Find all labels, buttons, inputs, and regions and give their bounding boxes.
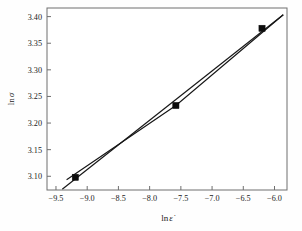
y-tick-label: 3.15 — [28, 146, 42, 155]
y-tick-label: 3.25 — [28, 92, 42, 101]
x-tick-label: −9.5 — [49, 194, 64, 203]
y-tick-label: 3.20 — [28, 119, 42, 128]
y-tick-label: 3.30 — [28, 66, 42, 75]
y-axis-tick-labels: 3.103.153.203.253.303.353.40 — [28, 13, 42, 182]
data-point-marker — [72, 174, 78, 180]
chart-figure: −9.5−9.0−8.5−8.0−7.5−7.0−6.5−6.0 3.103.1… — [0, 0, 302, 231]
plot-area-background — [47, 8, 287, 190]
data-point-marker — [173, 102, 179, 108]
x-axis-title: lnε̇ — [161, 213, 176, 223]
x-tick-label: −8.5 — [111, 194, 126, 203]
data-point-marker — [259, 25, 265, 31]
scatter-plot: −9.5−9.0−8.5−8.0−7.5−7.0−6.5−6.0 3.103.1… — [0, 0, 302, 231]
x-tick-label: −6.0 — [267, 194, 282, 203]
x-tick-label: −7.5 — [173, 194, 188, 203]
y-tick-label: 3.35 — [28, 39, 42, 48]
x-axis-tick-labels: −9.5−9.0−8.5−8.0−7.5−7.0−6.5−6.0 — [49, 194, 282, 203]
y-tick-label: 3.40 — [28, 13, 42, 22]
y-tick-label: 3.10 — [28, 172, 42, 181]
y-axis-title: lnσ — [6, 92, 16, 105]
x-tick-label: −9.0 — [80, 194, 95, 203]
x-tick-label: −8.0 — [142, 194, 157, 203]
x-tick-label: −7.0 — [205, 194, 220, 203]
x-tick-label: −6.5 — [236, 194, 251, 203]
